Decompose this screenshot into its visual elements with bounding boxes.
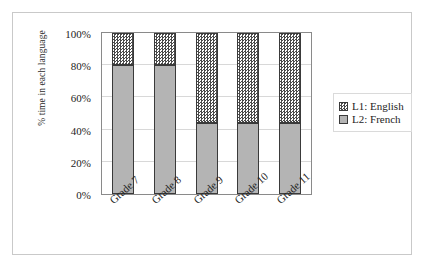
checkerboard-swatch <box>339 102 348 111</box>
bar-group[interactable] <box>237 33 259 194</box>
figure-frame: % time in each language 0%20%40%60%80%10… <box>12 12 412 255</box>
x-axis-tick-labels: Grade 7Grade 8Grade 9Grade 10Grade 11 <box>102 197 311 257</box>
y-axis-tick-label: 40% <box>71 125 91 137</box>
legend-item[interactable]: L1: English <box>339 100 404 112</box>
y-axis-tick-label: 80% <box>71 60 91 72</box>
y-axis-tick-label: 100% <box>65 28 91 40</box>
bars-layer <box>102 33 311 194</box>
bar-group[interactable] <box>279 33 301 194</box>
bar-group[interactable] <box>112 33 134 194</box>
legend-item[interactable]: L2: French <box>339 113 404 125</box>
bar-group[interactable] <box>196 33 218 194</box>
y-axis-tick-label: 60% <box>71 92 91 104</box>
y-axis-tick-labels: 0%20%40%60%80%100% <box>51 32 97 195</box>
bar-group[interactable] <box>154 33 176 194</box>
chart-legend: L1: EnglishL2: French <box>333 93 412 132</box>
bar-segment-l1-english[interactable] <box>112 33 134 65</box>
bar-segment-l1-english[interactable] <box>196 33 218 123</box>
y-axis-tick-label: 20% <box>71 157 91 169</box>
y-axis-title: % time in each language <box>37 3 47 153</box>
bar-segment-l1-english[interactable] <box>237 33 259 123</box>
legend-item-label: L2: French <box>352 113 401 125</box>
solid-gray-swatch <box>339 115 348 124</box>
bar-segment-l1-english[interactable] <box>279 33 301 123</box>
bar-segment-l1-english[interactable] <box>154 33 176 65</box>
legend-item-label: L1: English <box>352 100 404 112</box>
y-axis-tick-label: 0% <box>76 189 91 201</box>
